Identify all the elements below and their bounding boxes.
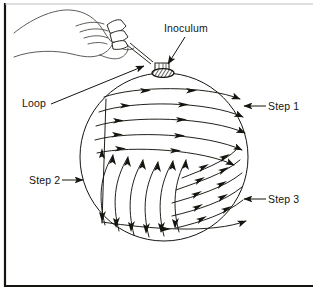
- label-loop: Loop: [22, 97, 46, 109]
- inoculum-spot: [152, 69, 174, 78]
- streak-plate-figure: Inoculum Loop Step 1 Step 2 Step 3: [0, 0, 315, 294]
- label-step-1: Step 1: [268, 100, 299, 112]
- page-background: [0, 0, 315, 294]
- label-inoculum: Inoculum: [164, 22, 208, 34]
- figure-canvas: Inoculum Loop Step 1 Step 2 Step 3: [0, 0, 315, 294]
- label-step-3: Step 3: [268, 193, 299, 205]
- label-step-2: Step 2: [29, 174, 60, 186]
